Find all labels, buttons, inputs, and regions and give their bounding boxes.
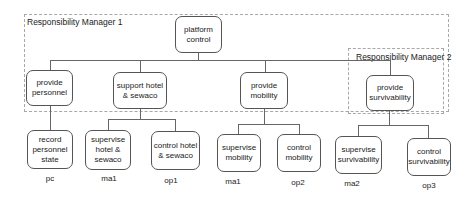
connector bbox=[390, 60, 391, 75]
node-label: record personnel state bbox=[29, 135, 71, 165]
node-label: supervise hotel & sewaco bbox=[87, 135, 129, 165]
responsibility-manager-1-label: Responsibility Manager 1 bbox=[27, 17, 122, 27]
node-tag: ma1 bbox=[94, 174, 124, 183]
node-record-personnel-state[interactable]: record personnel state bbox=[27, 130, 73, 169]
connector bbox=[50, 60, 391, 61]
connector bbox=[428, 125, 429, 138]
connector bbox=[50, 60, 51, 70]
node-provide-survivability[interactable]: provide survivability bbox=[366, 75, 414, 111]
connector bbox=[264, 109, 265, 124]
node-tag: ma1 bbox=[218, 177, 248, 186]
connector bbox=[358, 125, 428, 126]
node-supervise-survivability[interactable]: supervise survivability bbox=[335, 136, 382, 174]
connector bbox=[389, 111, 390, 125]
node-provide-personnel[interactable]: provide personnel bbox=[26, 70, 73, 106]
node-label: provide survivability bbox=[368, 83, 412, 103]
node-control-survivability[interactable]: control survivability bbox=[407, 138, 451, 176]
node-control-hotel-sewaco[interactable]: control hotel & sewaco bbox=[151, 131, 200, 170]
node-tag: op3 bbox=[414, 181, 444, 190]
node-label: control hotel & sewaco bbox=[153, 141, 198, 161]
node-control-mobility[interactable]: control mobility bbox=[277, 134, 321, 172]
node-provide-mobility[interactable]: provide mobility bbox=[240, 72, 288, 109]
node-label: provide personnel bbox=[28, 78, 71, 98]
node-supervise-mobility[interactable]: supervise mobility bbox=[217, 134, 261, 172]
connector bbox=[358, 125, 359, 136]
connector bbox=[140, 60, 141, 72]
connector bbox=[238, 124, 239, 134]
node-tag: pc bbox=[35, 174, 65, 183]
connector bbox=[299, 124, 300, 134]
node-label: provide mobility bbox=[242, 81, 286, 101]
node-supervise-hotel-sewaco[interactable]: supervise hotel & sewaco bbox=[85, 130, 131, 170]
connector bbox=[108, 119, 109, 130]
node-support-hotel-sewaco[interactable]: support hotel & sewaco bbox=[113, 72, 167, 109]
node-label: platform control bbox=[177, 25, 220, 45]
connector bbox=[238, 124, 300, 125]
connector bbox=[140, 109, 141, 119]
node-tag: ma2 bbox=[337, 179, 367, 188]
connector bbox=[198, 53, 199, 60]
node-platform-control[interactable]: platform control bbox=[175, 16, 222, 53]
node-label: control mobility bbox=[279, 143, 319, 163]
node-tag: op2 bbox=[283, 178, 313, 187]
node-label: supervise survivability bbox=[337, 145, 380, 165]
connector bbox=[50, 106, 51, 130]
connector bbox=[265, 60, 266, 72]
connector bbox=[108, 119, 176, 120]
node-tag: op1 bbox=[156, 176, 186, 185]
node-label: control survivability bbox=[408, 147, 449, 167]
connector bbox=[175, 119, 176, 131]
node-label: support hotel & sewaco bbox=[115, 81, 165, 101]
node-label: supervise mobility bbox=[219, 143, 259, 163]
